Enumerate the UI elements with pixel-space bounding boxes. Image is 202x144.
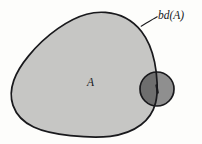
boundary-label: bd(A): [158, 10, 184, 22]
boundary-of-set-figure: bd(A) A: [0, 0, 202, 144]
figure-canvas: [0, 0, 202, 144]
set-a-region: [11, 12, 157, 137]
boundary-point-marker: [156, 85, 157, 92]
set-label-a: A: [87, 77, 94, 89]
leader-line-to-boundary: [141, 17, 157, 26]
